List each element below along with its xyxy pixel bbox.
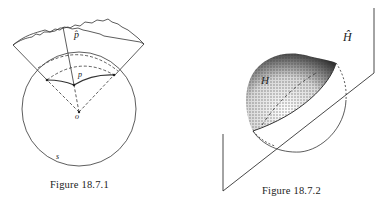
label-p: p: [78, 70, 82, 79]
sphere-outline-back: [336, 63, 346, 100]
point-left: [46, 79, 49, 82]
label-h-hat: Ĥ: [343, 30, 352, 45]
figure-18-7-1: [13, 19, 144, 166]
label-o: o: [75, 112, 79, 121]
label-s: s: [56, 152, 59, 161]
caption-figure-18-7-1: Figure 18.7.1: [50, 179, 109, 190]
point-p: [73, 84, 76, 87]
dashed-arc-outer: [38, 55, 118, 71]
label-h: H: [261, 74, 269, 86]
ray-p-to-phat: [63, 27, 74, 85]
figures-canvas: [0, 0, 386, 203]
sphere-outline-left-lower: [253, 131, 275, 146]
label-p-hat: p̂: [74, 29, 79, 40]
dashed-radius-right: [79, 75, 114, 112]
cone-left-edge: [13, 45, 47, 80]
cone-right-edge: [114, 44, 144, 76]
point-right: [113, 74, 116, 77]
caption-figure-18-7-2: Figure 18.7.2: [262, 185, 321, 196]
